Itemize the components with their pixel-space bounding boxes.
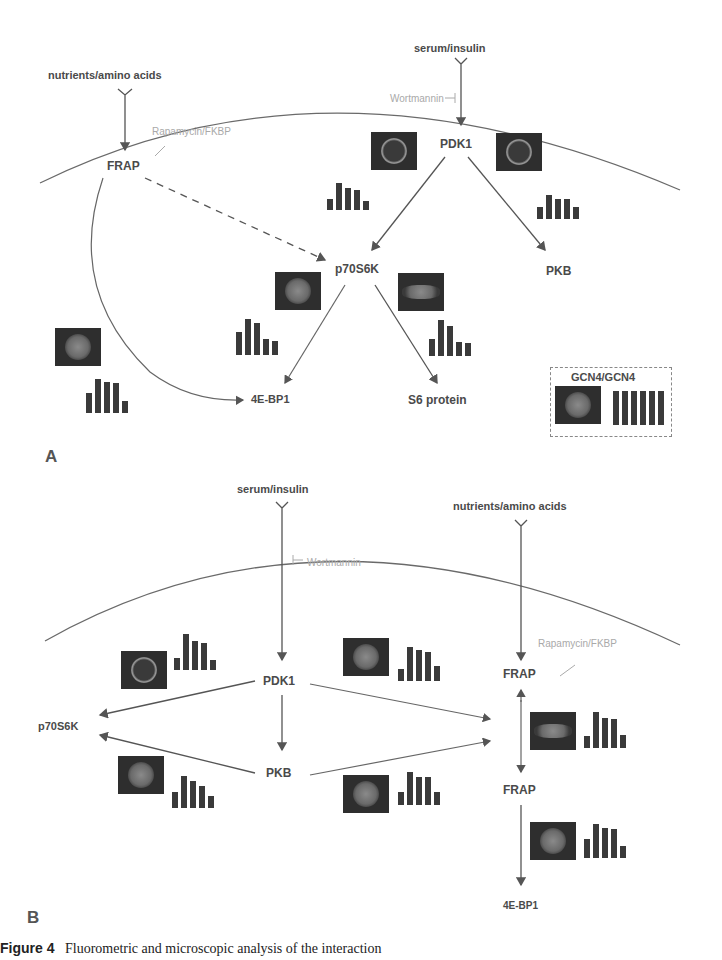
pathway-diagram	[0, 0, 722, 960]
node-4ebp1-b: 4E-BP1	[503, 900, 538, 911]
node-pkb-a: PKB	[546, 264, 571, 278]
chart-pdk1-right-a	[535, 182, 587, 227]
label-wortmannin-a: Wortmannin	[390, 93, 444, 104]
micrograph-frap-in-bottom-b	[343, 775, 389, 813]
micrograph-pdk1-b	[121, 651, 167, 689]
node-pkb-b: PKB	[266, 766, 291, 780]
node-frap-bottom-b: FRAP	[503, 783, 536, 797]
figure-caption: Figure 4 Fluorometric and microscopic an…	[0, 940, 381, 957]
micrograph-gcn4	[555, 386, 601, 424]
label-serum-b: serum/insulin	[237, 483, 309, 495]
caption-text: Fluorometric and microscopic analysis of…	[65, 941, 381, 956]
node-p70s6k-a: p70S6K	[335, 262, 379, 276]
chart-p70s6k-left-a	[234, 317, 292, 363]
chart-pdk1-b	[172, 632, 230, 678]
micrograph-pdk1-right-a	[496, 133, 542, 171]
label-wortmannin-b: Wortmannin	[307, 557, 361, 568]
chart-frap-mid-b	[582, 710, 640, 756]
label-nutrients-a: nutrients/amino acids	[48, 69, 162, 81]
chart-frap-in-top-b	[396, 643, 454, 689]
node-pdk1-a: PDK1	[440, 137, 472, 151]
figure-label: Figure 4	[0, 940, 54, 956]
micrograph-p70s6k-left-a	[275, 272, 321, 310]
chart-pkb-b	[170, 770, 228, 816]
micrograph-pdk1-left-a	[371, 132, 417, 170]
chart-frap-a	[84, 375, 140, 421]
micrograph-pkb-b	[118, 756, 164, 794]
micrograph-frap-a	[55, 328, 101, 366]
node-p70s6k-b: p70S6K	[38, 720, 78, 732]
node-frap-a: FRAP	[107, 159, 140, 173]
micrograph-frap-low-b	[530, 822, 576, 860]
label-serum-a: serum/insulin	[414, 42, 486, 54]
cell-membrane-b	[45, 561, 680, 645]
label-gcn4: GCN4/GCN4	[571, 371, 635, 383]
micrograph-frap-in-top-b	[343, 638, 389, 676]
panel-letter-a: A	[45, 447, 57, 467]
chart-frap-low-b	[582, 820, 640, 866]
chart-frap-in-bottom-b	[396, 767, 454, 813]
node-frap-top-b: FRAP	[503, 667, 536, 681]
chart-pdk1-left-a	[325, 178, 373, 218]
label-rapamycin-b: Rapamycin/FKBP	[538, 638, 617, 649]
label-rapamycin-a: Rapamycin/FKBP	[152, 126, 231, 137]
node-pdk1-b: PDK1	[263, 674, 295, 688]
chart-gcn4	[611, 387, 669, 433]
node-4ebp1-a: 4E-BP1	[251, 393, 290, 405]
micrograph-p70s6k-right-a	[398, 273, 444, 311]
micrograph-frap-mid-b	[530, 712, 576, 750]
panel-letter-b: B	[27, 908, 39, 928]
label-nutrients-b: nutrients/amino acids	[453, 500, 567, 512]
chart-p70s6k-right-a	[427, 318, 483, 364]
gcn4-control-inset: GCN4/GCN4	[550, 367, 672, 437]
node-s6-protein-a: S6 protein	[408, 393, 467, 407]
